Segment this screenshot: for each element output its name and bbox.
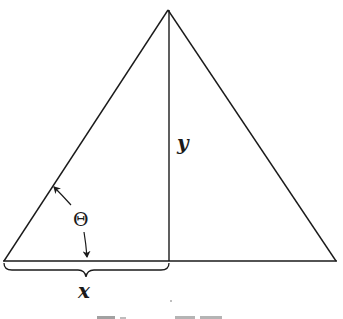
caption-fragment [97,300,222,319]
half-base-label: x [77,279,91,303]
angle-label: Θ [73,208,89,230]
triangle-diagram: y Θ x [0,0,343,319]
angle-arrow-side [54,187,71,205]
triangle-outline [3,10,337,261]
angle-arrow-base [84,232,87,257]
height-label: y [176,131,190,155]
half-base-brace [4,263,169,277]
right-side [168,10,336,261]
